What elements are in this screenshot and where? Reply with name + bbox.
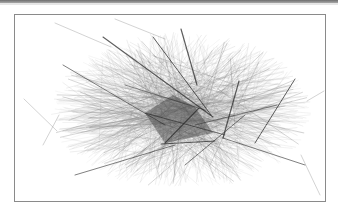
stray-edge [55, 23, 111, 47]
stray-edge [24, 99, 57, 131]
stray-edge [301, 155, 320, 195]
network-graph [15, 15, 325, 201]
stray-edge [307, 91, 324, 101]
top-rule-shadow [0, 3, 338, 5]
stray-edge [115, 19, 165, 39]
graph-frame [14, 14, 326, 202]
